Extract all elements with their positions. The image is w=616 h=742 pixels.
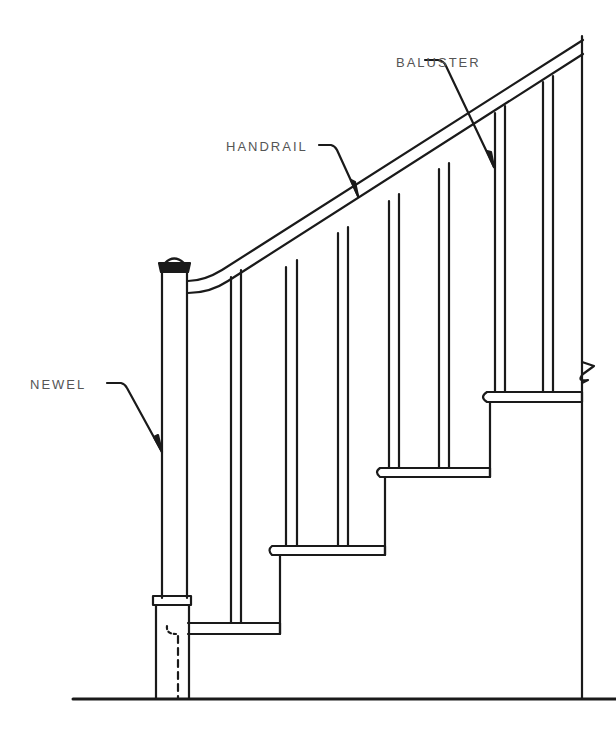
stair-treads: [188, 392, 582, 634]
label-handrail: HANDRAIL: [226, 140, 308, 153]
handrail: [188, 40, 583, 293]
staircase-diagram: BALUSTER HANDRAIL NEWEL: [0, 0, 616, 742]
newel-post: [153, 259, 191, 700]
staircase-drawing: [0, 0, 616, 742]
leader-lines: [107, 60, 494, 452]
balusters: [231, 76, 553, 623]
label-baluster: BALUSTER: [396, 56, 481, 69]
label-newel: NEWEL: [30, 378, 86, 391]
